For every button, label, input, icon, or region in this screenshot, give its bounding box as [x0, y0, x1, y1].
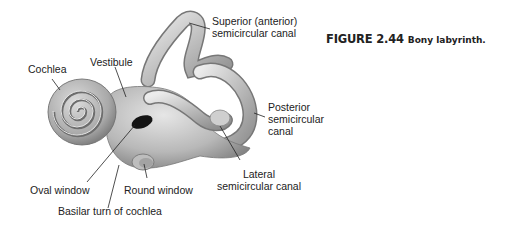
label-superior-line1: Superior (anterior): [212, 15, 297, 27]
figure-title: Bony labyrinth.: [408, 35, 486, 45]
label-vestibule: Vestibule: [90, 56, 133, 68]
cochlea-shape: [48, 79, 116, 145]
label-posterior-line3: canal: [268, 125, 324, 137]
label-lateral-line1: Lateral: [214, 168, 304, 180]
label-cochlea: Cochlea: [28, 63, 67, 75]
label-oval-window: Oval window: [30, 184, 90, 196]
figure-caption: FIGURE 2.44Bony labyrinth.: [326, 29, 486, 47]
label-posterior-line1: Posterior: [268, 101, 324, 113]
leader-cochlea: [52, 79, 60, 90]
label-superior-canal: Superior (anterior) semicircular canal: [212, 15, 297, 39]
label-basilar-turn: Basilar turn of cochlea: [58, 205, 162, 217]
label-round-window: Round window: [124, 184, 193, 196]
label-posterior-canal: Posterior semicircular canal: [268, 101, 324, 137]
label-lateral-line2: semicircular canal: [214, 180, 304, 192]
figure-number: FIGURE 2.44: [326, 32, 404, 46]
round-window-shape: [132, 154, 154, 170]
label-superior-line2: semicircular canal: [212, 27, 297, 39]
label-lateral-canal: Lateral semicircular canal: [214, 168, 304, 192]
leader-basilar: [108, 165, 119, 208]
label-posterior-line2: semicircular: [268, 113, 324, 125]
